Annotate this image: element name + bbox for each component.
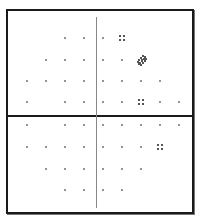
grid-dot (102, 37, 104, 39)
grid-dot (83, 80, 85, 82)
grid-dot (83, 37, 85, 39)
grid-dot (64, 124, 66, 126)
grid-dot (102, 80, 104, 82)
grid-dot (102, 146, 104, 148)
grid-dot (102, 189, 104, 191)
grid-dot (121, 189, 123, 191)
grid-dot (121, 101, 123, 103)
grid-dot (26, 124, 28, 126)
figure-frame (6, 9, 194, 214)
grid-dot (121, 59, 123, 61)
grid-dot (64, 168, 66, 170)
grid-dot (26, 101, 28, 103)
grid-dot (45, 146, 47, 148)
grid-dot (159, 101, 161, 103)
grid-dot (121, 168, 123, 170)
grid-dot (83, 168, 85, 170)
grid-dot (64, 146, 66, 148)
grid-dot (64, 59, 66, 61)
grid-dot (102, 101, 104, 103)
grid-dot (140, 168, 142, 170)
grid-dot (121, 124, 123, 126)
grid-dot (64, 101, 66, 103)
grid-dot (83, 101, 85, 103)
grid-dot (102, 168, 104, 170)
grid-dot (83, 189, 85, 191)
grid-dot (178, 124, 180, 126)
grid-dot (159, 80, 161, 82)
grid-dot (26, 146, 28, 148)
grid-dot (140, 146, 142, 148)
grid-dot (121, 80, 123, 82)
grid-dot (45, 168, 47, 170)
grid-dot (140, 124, 142, 126)
grid-dot (83, 124, 85, 126)
grid-dot (83, 59, 85, 61)
grid-dot (64, 37, 66, 39)
grid-dot (26, 80, 28, 82)
grid-dot (45, 80, 47, 82)
grid-dot (178, 101, 180, 103)
grid-dot (102, 59, 104, 61)
grid-dot (45, 59, 47, 61)
grid-dot (121, 146, 123, 148)
grid-dot (83, 146, 85, 148)
grid-dot (140, 80, 142, 82)
horizontal-divider (6, 115, 194, 117)
vertical-center-line (96, 17, 97, 208)
grid-dot (64, 189, 66, 191)
grid-dot (102, 124, 104, 126)
grid-dot (159, 124, 161, 126)
grid-dot (64, 80, 66, 82)
